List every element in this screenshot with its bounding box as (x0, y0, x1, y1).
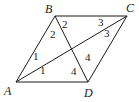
angle-label-4-at-d: 4 (85, 51, 91, 63)
angle-label-1-at-a: 1 (33, 50, 39, 62)
vertex-label-d: D (83, 86, 93, 100)
angle-label-2-at-b: 2 (62, 18, 68, 30)
parallelogram-diagram: ABCD 22331144 (0, 0, 139, 102)
segment-cd (88, 16, 127, 82)
vertex-label-b: B (45, 2, 53, 16)
angle-label-1-at-a: 1 (40, 64, 46, 76)
segment-ab (16, 16, 55, 82)
angle-label-3-at-c: 3 (104, 27, 110, 39)
angle-label-2-at-b: 2 (50, 28, 56, 40)
angle-labels-group: 22331144 (33, 16, 110, 77)
vertex-label-a: A (3, 84, 12, 98)
vertex-label-c: C (126, 1, 135, 15)
angle-label-4-at-d: 4 (71, 65, 77, 77)
